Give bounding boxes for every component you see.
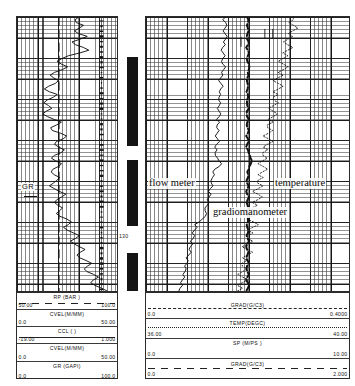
scale-min: 36.00 [148,331,162,337]
scale-max: 10.00 [333,351,347,357]
scale-mnemonic: RP (BAR ) [42,294,92,300]
scale-min: 0.0 [148,351,156,357]
scale-row: CVEL(M/MM) 0.0 50.00 [17,310,117,327]
scale-max: 2.000 [333,371,347,377]
scale-min: 0.0 [19,373,27,379]
casing-interval-3 [127,253,138,291]
scale-row: TEMP(DEGC) 36.00 40.00 [146,319,349,339]
right-log-track [145,16,350,292]
left-track-curves [17,17,117,291]
scale-mnemonic: GR (GAPI) [17,363,117,369]
scale-mnemonic: GRAD(G/C3) [197,361,299,367]
scale-row: CVEL(M/MM) 0.0 50.00 [17,344,117,362]
left-scale-legend: RP (BAR ) 50.00 100.0 CVEL(M/MM) 0.0 50.… [16,292,118,379]
scale-row: GR (GAPI) 0.0 100.0 [17,362,117,380]
scale-row: CCL ( ) -19.00 1.000 [17,327,117,344]
scale-mnemonic: TEMP(DEGC) [197,320,299,326]
log-sheet: GR 130 flow meter temperature gradiomano… [0,0,355,386]
scale-row: GRAD(G/C3) 0.0 0.4000 [146,293,349,319]
scale-mnemonic: GRAD(G/C3) [197,302,299,308]
left-log-track [16,16,118,292]
depth-casing-column [118,16,145,292]
scale-max: 100.0 [101,373,115,379]
scale-max: 50.00 [101,354,115,360]
annotation-temperature: temperature [274,178,326,189]
depth-marker-label: 130 [119,233,128,239]
scale-max: 40.00 [333,331,347,337]
scale-min: 0.0 [148,371,156,377]
scale-mnemonic: CVEL(M/MM) [17,311,117,317]
annotation-gr-leader [24,196,37,197]
scale-min: 0.0 [148,311,156,317]
casing-interval-1 [127,57,138,146]
scale-max: 0.4000 [330,311,347,317]
scale-min: -19.00 [19,336,35,342]
scale-min: 50.00 [19,302,33,308]
scale-max: 1.000 [101,336,115,342]
scale-row: SP (M/PS ) 0.0 10.00 [146,339,349,359]
scale-min: 0.0 [19,354,27,360]
right-track-curves [146,17,349,291]
scale-row: GRAD(G/C3) 0.0 2.000 [146,359,349,378]
scale-max: 100.0 [101,302,115,308]
annotation-gradiomanometer: gradiomanometer [212,207,288,218]
scale-style-indicator [148,327,347,328]
scale-mnemonic: CVEL(M/MM) [17,345,117,351]
right-scale-legend: GRAD(G/C3) 0.0 0.4000 TEMP(DEGC) 36.00 4… [145,292,350,379]
scale-mnemonic: SP (M/PS ) [146,340,349,346]
scale-max: 50.00 [101,319,115,325]
scale-row: RP (BAR ) 50.00 100.0 [17,293,117,310]
scale-mnemonic: CCL ( ) [42,328,92,334]
annotation-gr: GR [21,183,35,191]
scale-style-indicator [148,308,347,309]
scale-min: 0.0 [19,319,27,325]
scale-style-indicator [148,368,347,369]
annotation-flow-meter: flow meter [148,178,196,189]
casing-interval-2 [127,160,138,226]
